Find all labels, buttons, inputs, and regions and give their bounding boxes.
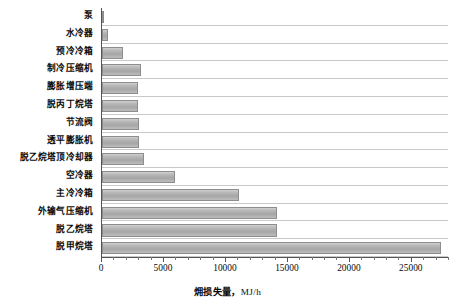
category-label-9: 空冷器 <box>66 170 93 180</box>
category-label-4: 膨胀增压端 <box>47 81 93 91</box>
plot-area <box>101 8 448 257</box>
x-tick-minor <box>436 257 437 260</box>
x-axis-title: 㶲损失量，MJ/h <box>0 284 455 298</box>
exergy-loss-bar-chart: 泵 水冷器 预冷冷箱 制冷压缩机 膨胀增压端 脱丙丁烷塔 节流阀 透平膨胀机 脱… <box>0 0 455 305</box>
x-tick-minor <box>312 257 313 260</box>
x-tick-minor <box>299 257 300 260</box>
x-tick-minor <box>386 257 387 260</box>
x-tick-minor <box>188 257 189 260</box>
x-tick-minor <box>336 257 337 260</box>
x-axis-title-separator: ， <box>231 287 240 297</box>
x-tick-minor <box>113 257 114 260</box>
bar-2 <box>102 47 123 59</box>
bar-4 <box>102 82 138 94</box>
gridline <box>102 185 448 186</box>
x-tick-label-1: 5000 <box>154 263 173 273</box>
x-tick-minor <box>151 257 152 260</box>
category-label-7: 透平膨胀机 <box>47 135 93 145</box>
category-label-8: 脱乙烷塔顶冷却器 <box>20 152 93 162</box>
x-tick-label-5: 25000 <box>399 263 422 273</box>
gridline <box>102 203 448 204</box>
bar-8 <box>102 153 144 165</box>
gridline <box>102 78 448 79</box>
gridline <box>102 132 448 133</box>
gridline <box>102 238 448 239</box>
category-label-11: 外输气压缩机 <box>38 206 93 216</box>
gridline <box>102 220 448 221</box>
bar-6 <box>102 118 139 130</box>
category-label-6: 节流阀 <box>66 117 93 127</box>
bar-12 <box>102 224 277 236</box>
bar-1 <box>102 29 108 41</box>
bar-5 <box>102 100 138 112</box>
x-tick-minor <box>448 257 449 260</box>
category-label-1: 水冷器 <box>66 28 93 38</box>
gridline <box>102 149 448 150</box>
category-label-5: 脱丙丁烷塔 <box>47 99 93 109</box>
category-label-2: 预冷冷箱 <box>56 46 93 56</box>
gridline <box>102 114 448 115</box>
bar-0 <box>102 11 104 23</box>
gridline <box>102 25 448 26</box>
x-tick-major <box>349 257 350 262</box>
x-tick-label-2: 10000 <box>213 263 236 273</box>
x-tick-minor <box>175 257 176 260</box>
x-tick-major <box>287 257 288 262</box>
x-tick-minor <box>423 257 424 260</box>
x-tick-minor <box>374 257 375 260</box>
category-label-3: 制冷压缩机 <box>47 63 93 73</box>
gridline <box>102 167 448 168</box>
gridline <box>102 96 448 97</box>
category-label-10: 主冷冷箱 <box>56 188 93 198</box>
x-tick-minor <box>213 257 214 260</box>
x-tick-minor <box>262 257 263 260</box>
gridline <box>102 60 448 61</box>
gridline <box>102 43 448 44</box>
category-label-0: 泵 <box>84 10 93 20</box>
bar-7 <box>102 136 139 148</box>
bar-3 <box>102 64 141 76</box>
x-tick-major <box>411 257 412 262</box>
bar-11 <box>102 207 277 219</box>
x-tick-label-0: 0 <box>99 263 104 273</box>
category-label-12: 脱乙烷塔 <box>56 224 93 234</box>
x-tick-minor <box>324 257 325 260</box>
bar-9 <box>102 171 175 183</box>
x-tick-minor <box>361 257 362 260</box>
x-axis-title-unit: MJ/h <box>241 287 262 297</box>
x-tick-minor <box>138 257 139 260</box>
x-tick-major <box>225 257 226 262</box>
category-axis-labels: 泵 水冷器 预冷冷箱 制冷压缩机 膨胀增压端 脱丙丁烷塔 节流阀 透平膨胀机 脱… <box>0 8 97 257</box>
x-axis-title-main: 㶲损失量 <box>194 287 232 297</box>
x-tick-minor <box>200 257 201 260</box>
x-tick-label-3: 15000 <box>275 263 298 273</box>
category-label-13: 脱甲烷塔 <box>56 241 93 251</box>
x-tick-minor <box>250 257 251 260</box>
bar-13 <box>102 242 441 254</box>
x-tick-minor <box>398 257 399 260</box>
x-tick-minor <box>126 257 127 260</box>
x-tick-major <box>101 257 102 262</box>
x-tick-major <box>163 257 164 262</box>
x-tick-minor <box>275 257 276 260</box>
bar-10 <box>102 189 239 201</box>
x-tick-label-4: 20000 <box>337 263 360 273</box>
x-tick-minor <box>237 257 238 260</box>
